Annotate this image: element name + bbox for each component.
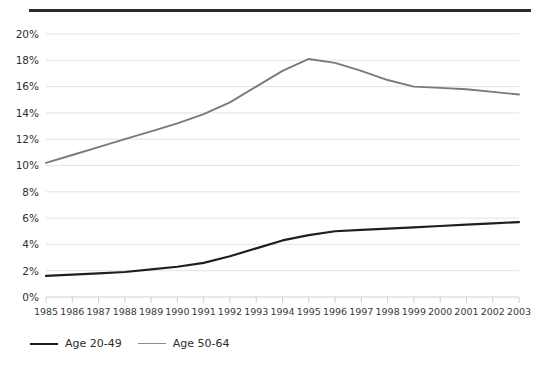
x-axis-tick-label: 1992 [218,306,242,317]
x-axis-labels-group: 1985198619871988198919901991199219931994… [34,306,531,317]
x-axis-tick-label: 1985 [34,306,58,317]
legend-item[interactable]: Age 20-49 [30,337,122,350]
x-axis-tick-label: 1996 [323,306,347,317]
x-axis-tick-label: 1997 [349,306,373,317]
y-axis-tick-label: 4% [22,238,39,250]
series-line-age-20-49 [46,222,519,276]
y-axis-tick-label: 0% [22,291,39,303]
x-axis-tick-label: 1991 [192,306,216,317]
legend-label: Age 20-49 [65,337,122,350]
legend-label: Age 50-64 [173,337,230,350]
y-axis-tick-label: 6% [22,212,39,224]
chart-legend: Age 20-49Age 50-64 [30,337,230,350]
series-line-age-50-64 [46,59,519,163]
x-axis-tick-label: 1995 [297,306,321,317]
y-axis-tick-label: 12% [16,133,39,145]
x-axis-tick-label: 1986 [60,306,84,317]
line-chart-plot: 0%2%4%6%8%10%12%14%16%18%20% 19851986198… [0,0,538,373]
y-axis-tick-label: 2% [22,265,39,277]
x-axis-tick-label: 2003 [507,306,531,317]
y-axis-tick-label: 18% [16,54,39,66]
x-axis-tick-label: 1994 [270,306,294,317]
y-axis-tick-label: 8% [22,186,39,198]
x-axis-tick-label: 1999 [402,306,426,317]
y-axis-tick-label: 10% [16,159,39,171]
x-axis-tick-label: 2000 [428,306,452,317]
x-axis-tick-label: 1987 [86,306,110,317]
x-axis-tick-label: 1993 [244,306,268,317]
y-axis-tick-label: 16% [16,80,39,92]
x-axis-tick-label: 1989 [139,306,163,317]
x-axis-ticks-group [46,297,519,303]
chart-container: 0%2%4%6%8%10%12%14%16%18%20% 19851986198… [0,0,538,373]
y-axis-tick-label: 14% [16,107,39,119]
y-axis-tick-label: 20% [16,28,39,40]
legend-swatch [30,343,58,345]
x-axis-tick-label: 2001 [454,306,478,317]
x-axis-tick-label: 1990 [165,306,189,317]
y-axis-labels-group: 0%2%4%6%8%10%12%14%16%18%20% [16,28,39,303]
legend-swatch [138,343,166,344]
gridlines-group [46,34,519,297]
x-axis-tick-label: 1998 [376,306,400,317]
legend-item[interactable]: Age 50-64 [138,337,230,350]
series-group [46,59,519,276]
x-axis-tick-label: 1988 [113,306,137,317]
x-axis-tick-label: 2002 [481,306,505,317]
